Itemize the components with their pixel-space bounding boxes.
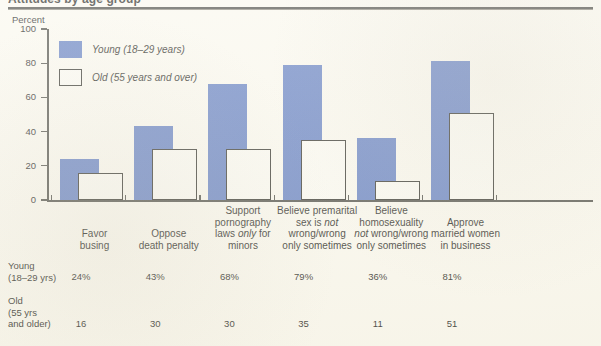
- category-label-4: Believehomosexualitynot wrong/wrongonly …: [348, 205, 434, 251]
- table-cell-young-4: 36%: [343, 271, 413, 282]
- x-axis-line: [47, 200, 593, 202]
- plot-area: 020406080100: [0, 0, 601, 215]
- bar-old-1: [152, 149, 197, 200]
- y-tick-40: [41, 131, 47, 132]
- y-tick-label-0: 0: [6, 194, 36, 205]
- legend-label-old: Old (55 years and over): [92, 72, 197, 83]
- x-separator-1: [125, 195, 126, 202]
- legend: Young (18–29 years) Old (55 years and ov…: [59, 38, 197, 94]
- x-separator-6: [496, 195, 497, 202]
- table-cell-old-4: 11: [343, 318, 413, 329]
- y-tick-label-100: 100: [6, 23, 36, 34]
- table-cell-old-2: 30: [194, 318, 264, 329]
- y-tick-60: [41, 97, 47, 98]
- legend-swatch-old: [59, 69, 82, 86]
- bar-old-0: [78, 173, 123, 200]
- y-tick-100: [41, 28, 47, 29]
- bar-old-5: [449, 113, 494, 200]
- table-cell-old-5: 51: [417, 318, 487, 329]
- category-label-0: Favorbusing: [52, 228, 138, 251]
- legend-swatch-young: [59, 41, 82, 58]
- y-axis-line: [47, 29, 49, 202]
- y-tick-label-80: 80: [6, 57, 36, 68]
- table-cell-young-1: 43%: [120, 271, 190, 282]
- category-label-2: Supportpornographylaws only forminors: [200, 205, 286, 251]
- x-separator-5: [422, 195, 423, 202]
- bar-old-2: [226, 149, 271, 200]
- table-row-label-old: Old (55 yrs and older): [8, 295, 51, 330]
- legend-label-young: Young (18–29 years): [92, 44, 185, 55]
- y-tick-label-20: 20: [6, 160, 36, 171]
- chart-figure: Attitudes by age group Percent 020406080…: [0, 0, 601, 346]
- legend-item-old: Old (55 years and over): [59, 66, 197, 88]
- table-cell-young-3: 79%: [269, 271, 339, 282]
- category-label-5: Approvemarried womenin business: [423, 217, 509, 252]
- category-label-3: Believe premaritalsex is notwrong/wrongo…: [274, 205, 360, 251]
- table-cell-young-2: 68%: [194, 271, 264, 282]
- table-cell-old-1: 30: [120, 318, 190, 329]
- y-tick-label-60: 60: [6, 91, 36, 102]
- data-table: Young (18–29 yrs) Old (55 yrs and older)…: [0, 258, 601, 346]
- table-cell-old-3: 35: [269, 318, 339, 329]
- x-separator-0: [51, 195, 52, 202]
- x-separator-4: [348, 195, 349, 202]
- y-tick-0: [41, 199, 47, 200]
- x-separator-2: [199, 195, 200, 202]
- bar-old-4: [375, 181, 420, 200]
- y-tick-label-40: 40: [6, 126, 36, 137]
- table-cell-young-5: 81%: [417, 271, 487, 282]
- category-label-1: Opposedeath penalty: [126, 228, 212, 251]
- legend-item-young: Young (18–29 years): [59, 38, 197, 60]
- y-tick-80: [41, 63, 47, 64]
- x-separator-3: [274, 195, 275, 202]
- table-cell-old-0: 16: [46, 318, 116, 329]
- bar-old-3: [301, 140, 346, 200]
- table-cell-young-0: 24%: [46, 271, 116, 282]
- y-tick-20: [41, 165, 47, 166]
